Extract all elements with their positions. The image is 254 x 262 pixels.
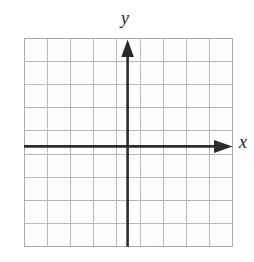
coordinate-plane-svg bbox=[0, 0, 254, 262]
y-axis-label: y bbox=[112, 9, 138, 27]
x-axis-label: x bbox=[234, 133, 252, 151]
coordinate-plane-figure: y x bbox=[0, 0, 254, 262]
